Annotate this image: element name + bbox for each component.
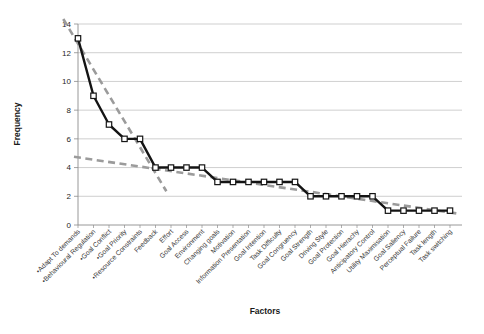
data-point-marker [137,136,142,141]
y-tick-label: 4 [67,163,72,172]
data-point-marker [385,208,390,213]
line-chart-svg: 02468101214•Adapt To demands•Behavioural… [0,0,484,334]
y-tick-label: 2 [67,192,72,201]
data-point-marker [261,179,266,184]
data-point-marker [339,194,344,199]
data-point-marker [401,208,406,213]
data-point-marker [75,36,80,41]
x-axis-title: Factors [250,306,281,316]
data-point-marker [292,179,297,184]
data-point-marker [122,136,127,141]
y-tick-label: 0 [67,221,72,230]
data-point-marker [199,165,204,170]
data-point-marker [184,165,189,170]
data-point-marker [277,179,282,184]
y-tick-label: 12 [62,49,71,58]
data-point-marker [323,194,328,199]
data-point-marker [230,179,235,184]
data-point-marker [168,165,173,170]
data-point-marker [153,165,158,170]
y-axis-title: Frequency [12,103,22,146]
data-point-marker [106,122,111,127]
data-point-marker [370,194,375,199]
data-point-marker [246,179,251,184]
data-point-marker [308,194,313,199]
data-point-marker [354,194,359,199]
y-tick-label: 10 [62,77,71,86]
data-point-marker [416,208,421,213]
y-tick-label: 8 [67,106,72,115]
data-point-marker [91,93,96,98]
shallow-trend-dashed-line [74,157,460,214]
chart-container: 02468101214•Adapt To demands•Behavioural… [0,0,484,334]
data-point-marker [215,179,220,184]
data-point-marker [432,208,437,213]
y-tick-label: 6 [67,135,72,144]
data-point-marker [447,208,452,213]
